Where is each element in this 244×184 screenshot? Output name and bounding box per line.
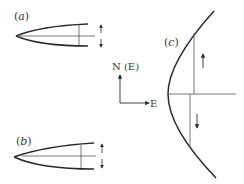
- compass: N (E) E: [112, 61, 157, 109]
- panel-a-upper-curve: [16, 24, 88, 36]
- panel-a-lower-curve: [16, 36, 88, 46]
- panel-a-label: (a): [14, 10, 29, 23]
- panel-a: (a): [14, 10, 101, 47]
- panel-c-label: (c): [164, 36, 179, 49]
- panel-c: (c): [164, 11, 236, 178]
- panel-b-lower-curve: [14, 157, 94, 169]
- panel-b: (b): [14, 135, 102, 169]
- diagram-canvas: (a) (b) N (E) E (c): [0, 0, 244, 184]
- panel-b-label: (b): [16, 135, 32, 148]
- compass-east-label: E: [150, 98, 157, 109]
- compass-north-label: N (E): [112, 61, 139, 72]
